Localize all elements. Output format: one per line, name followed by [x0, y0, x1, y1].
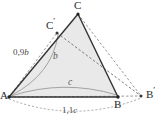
vertex-label-b: B	[114, 99, 121, 110]
geometry-figure: C C′ A B B′ b c 0,9b 1,1c	[0, 0, 162, 128]
vertex-label-b-prime: B′	[146, 89, 155, 100]
vertex-label-a: A	[0, 90, 8, 101]
prime-mark-bprime: ′	[153, 85, 155, 95]
vertex-dot-c	[76, 12, 79, 15]
measure-number-scaled-c: 1,1	[62, 105, 73, 115]
measure-variable-scaled-b: b	[24, 47, 29, 57]
geometry-canvas	[0, 0, 162, 128]
side-label-c: c	[68, 78, 72, 88]
measure-label-scaled-b: 0,9b	[13, 48, 29, 57]
vertex-dot-bprime	[140, 95, 143, 98]
measure-variable-scaled-c: c	[73, 105, 77, 115]
side-label-b: b	[53, 52, 58, 62]
measure-label-scaled-c: 1,1c	[62, 106, 77, 115]
vertex-dot-cprime	[56, 32, 59, 35]
measure-number-scaled-b: 0,9	[13, 47, 24, 57]
vertex-label-c-prime: C′	[46, 20, 55, 31]
prime-mark-cprime: ′	[53, 16, 55, 26]
vertex-label-c: C	[74, 0, 81, 11]
